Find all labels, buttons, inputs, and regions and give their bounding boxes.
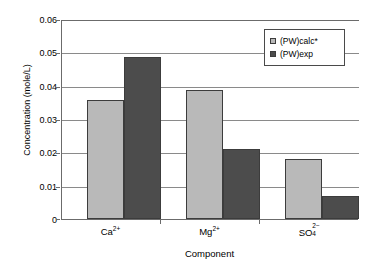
bar-calc-ca	[87, 100, 124, 219]
bar-exp-mg	[223, 149, 260, 219]
bar-exp-ca	[124, 57, 161, 219]
x-tick-sub-sup-stack: 2−4	[312, 226, 318, 236]
legend: (PW)calc* (PW)exp	[264, 29, 345, 66]
y-tick-mark	[56, 219, 60, 220]
x-axis-title: Component	[61, 248, 358, 259]
y-tick-mark	[56, 153, 60, 154]
x-tick-superscript: 2+	[113, 225, 120, 232]
y-tick-mark	[56, 53, 60, 54]
x-tick-label-so4: SO2−4	[259, 226, 358, 238]
y-axis-tick-marks	[0, 20, 62, 220]
bar-chart: Concentration (mole/L) 0.06 0.05 0.04 0.…	[0, 0, 374, 270]
x-tick-label-mg: Mg2+	[160, 226, 259, 237]
x-tick-base: Ca	[101, 226, 113, 237]
y-tick-mark	[56, 87, 60, 88]
legend-swatch-icon	[270, 38, 276, 44]
x-tick-superscript: 2+	[212, 225, 219, 232]
legend-label: (PW)exp	[280, 49, 313, 59]
legend-item-exp: (PW)exp	[270, 48, 339, 60]
x-tick-superscript: 2−	[312, 222, 319, 229]
bar-calc-so4	[285, 159, 322, 219]
x-tick-label-ca: Ca2+	[61, 226, 160, 237]
bar-exp-so4	[322, 196, 359, 219]
legend-item-calc: (PW)calc*	[270, 35, 339, 47]
x-axis-separator	[160, 220, 161, 224]
y-tick-mark	[56, 120, 60, 121]
x-tick-base: Mg	[199, 226, 212, 237]
x-axis-separator	[259, 220, 260, 224]
legend-swatch-icon	[270, 51, 276, 57]
x-tick-base: SO	[299, 227, 313, 238]
legend-label: (PW)calc*	[280, 36, 318, 46]
y-tick-mark	[56, 20, 60, 21]
bar-calc-mg	[186, 90, 223, 219]
y-tick-mark	[56, 187, 60, 188]
x-tick-subscript: 4	[312, 230, 316, 237]
